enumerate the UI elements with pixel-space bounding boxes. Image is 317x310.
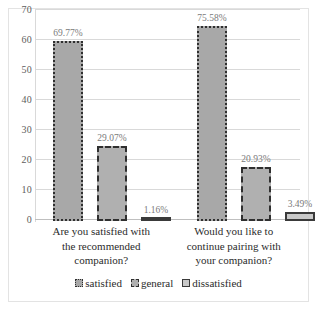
y-axis-tick: 50 [22, 64, 32, 75]
category-label-1: Are you satisfied with the recommended c… [35, 224, 168, 274]
category-label-line: the recommended [39, 239, 164, 254]
legend-swatch-icon [75, 279, 83, 287]
y-axis-line [35, 9, 36, 222]
category-label-line: Would you like to [172, 224, 297, 239]
plot-area: 69.77%29.07%1.16% 75.58%20.93%3.49% [35, 9, 300, 222]
bar-dissatisfied-1 [141, 217, 171, 221]
bar-value-label: 1.16% [144, 205, 169, 215]
y-axis: 70 60 50 40 30 20 10 0 [9, 9, 35, 222]
y-axis-tick: 70 [22, 4, 32, 15]
bar-group: 75.58%20.93%3.49% [197, 11, 315, 221]
legend-label: dissatisfied [192, 277, 242, 289]
y-axis-tick: 40 [22, 94, 32, 105]
bar-value-label: 29.07% [97, 133, 126, 143]
y-axis-tick: 60 [22, 34, 32, 45]
legend-swatch-icon [182, 279, 190, 287]
category-label-line: Are you satisfied with [39, 224, 164, 239]
legend-label: general [141, 277, 173, 289]
bar-satisfied-1 [53, 41, 83, 221]
bar-dissatisfied-2 [285, 212, 315, 221]
bar-value-label: 69.77% [53, 28, 82, 38]
y-axis-tick: 0 [27, 214, 32, 225]
bar-group: 69.77%29.07%1.16% [53, 11, 171, 221]
y-axis-tick: 10 [22, 184, 32, 195]
bar-value-label: 75.58% [197, 13, 226, 23]
category-label-line: companion? [39, 253, 164, 268]
bar-general-2 [241, 167, 271, 221]
category-label-line: continue pairing with [172, 239, 297, 254]
x-axis-categories: Are you satisfied with the recommended c… [35, 224, 300, 274]
chart-legend: satisfied general dissatisfied [0, 277, 317, 289]
y-axis-tick: 30 [22, 124, 32, 135]
category-label-2: Would you like to continue pairing with … [168, 224, 301, 274]
plot-wrapper: 70 60 50 40 30 20 10 0 69.77%29.07%1.16%… [9, 9, 308, 222]
bar-value-label: 3.49% [288, 199, 313, 209]
y-axis-tick: 20 [22, 154, 32, 165]
bar-satisfied-2 [197, 26, 227, 221]
legend-item-dissatisfied[interactable]: dissatisfied [182, 277, 242, 289]
legend-label: satisfied [85, 277, 122, 289]
category-label-line: your companion? [172, 253, 297, 268]
legend-swatch-icon [131, 279, 139, 287]
bar-value-label: 20.93% [241, 154, 270, 164]
legend-item-general[interactable]: general [131, 277, 173, 289]
gridline [35, 9, 300, 10]
legend-item-satisfied[interactable]: satisfied [75, 277, 122, 289]
bar-general-1 [97, 146, 127, 221]
chart-container: 70 60 50 40 30 20 10 0 69.77%29.07%1.16%… [0, 0, 317, 310]
